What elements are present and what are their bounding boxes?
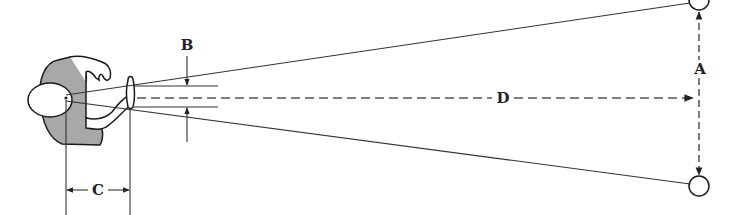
label-a: A: [693, 60, 706, 78]
lower-sight-line: [66, 101, 690, 184]
thumb: [127, 76, 135, 108]
diagram-canvas: B D A C: [0, 0, 744, 215]
label-b: B: [181, 36, 194, 54]
observer-figure: [28, 56, 135, 145]
eye-point: [64, 96, 67, 99]
top-target-circle: [689, 0, 709, 10]
label-d: D: [496, 89, 509, 107]
upper-sight-line: [66, 3, 690, 95]
label-c: C: [92, 181, 104, 199]
bottom-target-circle: [689, 176, 709, 196]
extended-arm: [86, 96, 130, 129]
head: [28, 83, 72, 117]
